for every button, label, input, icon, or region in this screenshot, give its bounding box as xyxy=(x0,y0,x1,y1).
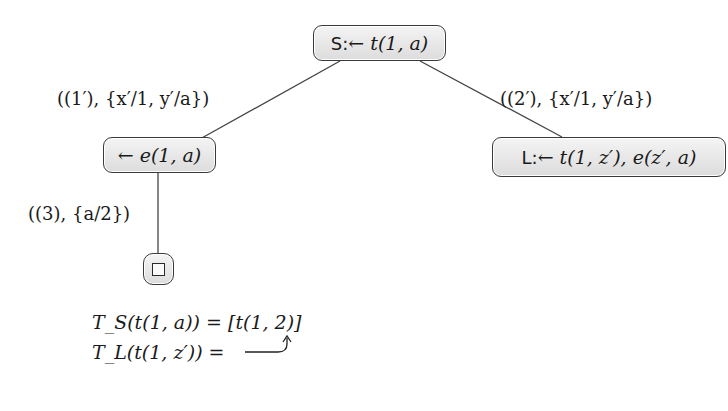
node-clause: ← t(1, z′), e(z′, a) xyxy=(538,146,697,168)
edge-label-root-right: ((2′), {x′/1, y′/a}) xyxy=(500,88,652,109)
table-ts-lhs: T_S(t(1, a)) = xyxy=(92,311,228,333)
edge-label-root-left: ((1′), {x′/1, y′/a}) xyxy=(57,88,209,109)
node-tag: L: xyxy=(522,147,538,168)
node-clause: ← e(1, a) xyxy=(118,144,202,166)
table-tl-lhs: T_L(t(1, z′)) = xyxy=(92,341,225,363)
node-tag: S: xyxy=(331,33,349,54)
node-clause: ← t(1, a) xyxy=(348,32,428,54)
node-left: ← e(1, a) xyxy=(103,137,216,173)
table-ts-rhs: [t(1, 2)] xyxy=(228,311,302,333)
node-right: L: ← t(1, z′), e(z′, a) xyxy=(492,137,726,177)
edge-root-left xyxy=(200,61,340,139)
edge-label-left-empty: ((3), {a/2}) xyxy=(28,203,130,224)
table-ts-row: T_S(t(1, a)) = [t(1, 2)] xyxy=(92,311,302,333)
node-root: S: ← t(1, a) xyxy=(313,25,446,61)
arrow-hook-icon xyxy=(245,338,287,352)
node-empty-clause xyxy=(143,253,174,285)
empty-clause-icon xyxy=(152,263,165,276)
table-tl-row: T_L(t(1, z′)) = xyxy=(92,341,225,363)
